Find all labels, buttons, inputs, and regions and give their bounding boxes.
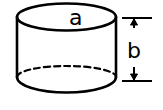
cylinder-bottom-front-arc: [17, 77, 116, 93]
label-b: b: [127, 38, 141, 63]
cylinder-bottom-back-arc-dashed: [17, 66, 116, 77]
label-a: a: [69, 5, 82, 30]
cylinder-diagram: a b: [0, 0, 163, 110]
cylinder-top-ellipse: [17, 4, 116, 31]
arrow-up-icon: [131, 19, 138, 25]
arrow-down-icon: [131, 74, 138, 80]
